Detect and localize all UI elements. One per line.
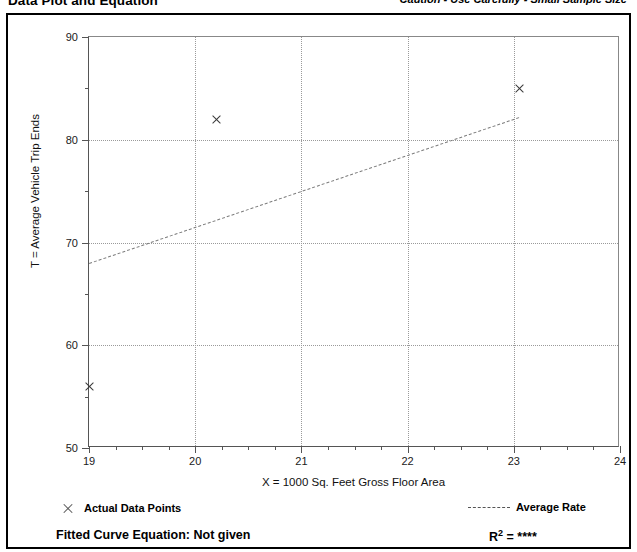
- x-axis-tick-minor: [248, 446, 249, 450]
- x-axis-tick-minor: [593, 446, 594, 450]
- fitted-curve-equation: Fitted Curve Equation: Not given: [56, 528, 250, 542]
- r-squared-prefix: R: [489, 530, 498, 544]
- x-axis-tick-minor: [567, 446, 568, 450]
- x-axis-tick-minor: [355, 446, 356, 450]
- x-axis-tick-minor: [142, 446, 143, 450]
- gridline-vertical: [301, 37, 302, 446]
- y-axis-tick-minor: [85, 397, 89, 398]
- x-axis-tick-label: 20: [189, 455, 201, 467]
- x-axis-tick-minor: [434, 446, 435, 450]
- x-axis-tick-major: [89, 446, 90, 453]
- y-axis-title: T = Average Vehicle Trip Ends: [29, 96, 41, 286]
- y-axis-tick-major: [82, 243, 89, 244]
- data-point-marker: [211, 114, 222, 125]
- y-axis-tick-label: 60: [66, 339, 78, 351]
- x-axis-tick-minor: [169, 446, 170, 450]
- legend-label-actual-data-points: Actual Data Points: [84, 502, 181, 514]
- r-squared-exponent: 2: [498, 528, 503, 538]
- data-plot-page: Data Plot and Equation Caution - Use Car…: [0, 0, 637, 552]
- x-axis-tick-minor: [275, 446, 276, 450]
- x-axis-tick-minor: [116, 446, 117, 450]
- data-point-marker: [84, 381, 95, 392]
- gridline-vertical: [514, 37, 515, 446]
- x-axis-tick-label: 24: [614, 455, 626, 467]
- x-axis-tick-minor: [328, 446, 329, 450]
- plot-area: 5060708090192021222324: [88, 36, 619, 447]
- legend-dashed-line-icon: [468, 507, 510, 508]
- legend-x-cross-icon: [62, 502, 74, 514]
- y-axis-tick-minor: [85, 88, 89, 89]
- r-squared-value: R2 = ****: [489, 528, 537, 544]
- y-axis-tick-major: [82, 37, 89, 38]
- gridline-vertical: [408, 37, 409, 446]
- r-squared-number: = ****: [507, 530, 537, 544]
- y-axis-tick-label: 50: [66, 442, 78, 454]
- x-axis-tick-major: [514, 446, 515, 453]
- x-axis-tick-label: 22: [401, 455, 413, 467]
- x-axis-tick-major: [620, 446, 621, 453]
- y-axis-tick-major: [82, 345, 89, 346]
- x-axis-tick-minor: [461, 446, 462, 450]
- y-axis-tick-label: 70: [66, 237, 78, 249]
- chart-canvas: 5060708090192021222324 X = 1000 Sq. Feet…: [0, 0, 637, 552]
- x-axis-title: X = 1000 Sq. Feet Gross Floor Area: [88, 476, 619, 488]
- y-axis-tick-minor: [85, 294, 89, 295]
- y-axis-tick-minor: [85, 191, 89, 192]
- gridline-vertical: [195, 37, 196, 446]
- x-axis-tick-major: [408, 446, 409, 453]
- data-point-marker: [514, 83, 525, 94]
- gridline-horizontal: [89, 140, 618, 141]
- x-axis-tick-minor: [540, 446, 541, 450]
- x-axis-tick-minor: [222, 446, 223, 450]
- y-axis-tick-label: 80: [66, 134, 78, 146]
- y-axis-tick-major: [82, 448, 89, 449]
- x-axis-tick-label: 21: [295, 455, 307, 467]
- y-axis-tick-major: [82, 140, 89, 141]
- legend-label-average-rate: Average Rate: [516, 501, 586, 513]
- gridline-horizontal: [89, 243, 618, 244]
- x-axis-tick-major: [301, 446, 302, 453]
- x-axis-tick-minor: [381, 446, 382, 450]
- gridline-horizontal: [89, 345, 618, 346]
- x-axis-tick-label: 19: [83, 455, 95, 467]
- x-axis-tick-minor: [487, 446, 488, 450]
- x-axis-tick-major: [195, 446, 196, 453]
- y-axis-tick-label: 90: [66, 31, 78, 43]
- x-axis-tick-label: 23: [508, 455, 520, 467]
